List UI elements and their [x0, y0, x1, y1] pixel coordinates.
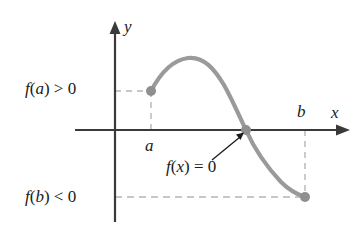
annotation-root-operator: = — [194, 157, 204, 176]
annotation-root-close-paren: ) — [184, 157, 190, 176]
annotation-fa-close-paren: ) — [44, 79, 50, 98]
function-curve — [151, 58, 305, 197]
annotation-fa-operator: > — [54, 79, 64, 98]
figure-container: y x a b f(a) > 0 f(b) < 0 f(x) = 0 — [0, 0, 361, 238]
annotation-fa: f(a) > 0 — [25, 80, 76, 97]
tick-label-a: a — [145, 137, 154, 154]
annotation-fa-variable: a — [35, 79, 44, 98]
annotation-fb-close-paren: ) — [44, 187, 50, 206]
annotation-fa-value: 0 — [68, 79, 77, 98]
annotation-fb-value: 0 — [68, 187, 77, 206]
x-axis-arrowhead — [336, 125, 350, 136]
annotation-root-variable: x — [176, 157, 184, 176]
annotation-fb: f(b) < 0 — [25, 188, 76, 205]
annotation-fb-variable: b — [35, 187, 44, 206]
marker-point-a — [146, 86, 156, 96]
x-axis-label: x — [331, 104, 339, 121]
y-axis-arrowhead — [110, 21, 121, 34]
tick-label-b: b — [297, 103, 306, 120]
annotation-fb-operator: < — [54, 187, 64, 206]
y-axis-label: y — [124, 18, 132, 35]
annotation-root: f(x) = 0 — [166, 158, 216, 175]
annotation-root-value: 0 — [208, 157, 217, 176]
marker-point-b — [300, 192, 310, 202]
